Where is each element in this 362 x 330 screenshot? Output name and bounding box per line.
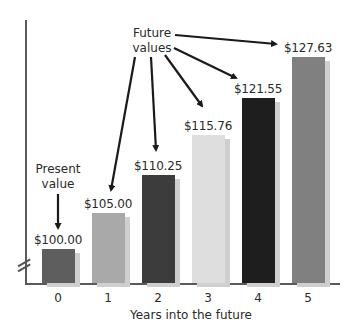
arrow-to-year-3	[165, 55, 202, 106]
arrow-to-year-2	[151, 57, 156, 150]
arrow-to-year-1	[111, 57, 135, 190]
annotation-arrows	[0, 0, 362, 330]
arrow-to-year-4	[174, 48, 236, 78]
arrow-to-year-5	[175, 35, 276, 44]
